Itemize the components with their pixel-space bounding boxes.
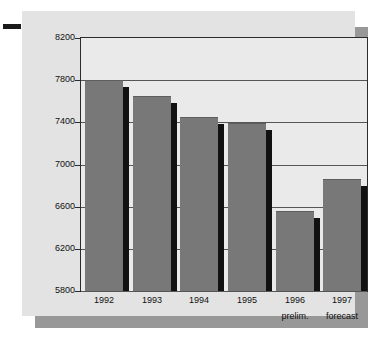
y-tick-label-7000: 7000	[49, 160, 75, 169]
bar-1996	[276, 211, 314, 291]
bar-1992	[85, 80, 123, 291]
bar-1995	[228, 123, 266, 291]
bar-group	[276, 211, 320, 291]
y-tick-mark-6600	[75, 207, 80, 208]
bar-shadow	[171, 103, 177, 291]
y-tick-mark-5800	[75, 291, 80, 292]
y-tick-mark-7800	[75, 80, 80, 81]
y-tick-mark-7000	[75, 165, 80, 166]
x-tick-label-1993: 1993	[128, 295, 176, 306]
x-tick-year: 1993	[142, 295, 162, 305]
x-tick-label-1995: 1995	[223, 295, 271, 306]
y-tick-label-7800: 7800	[49, 75, 75, 84]
x-tick-sublabel: prelim.	[271, 311, 319, 322]
x-axis: 19921993199419951996prelim.1997forecast	[80, 295, 368, 331]
x-tick-label-1992: 1992	[80, 295, 128, 306]
y-tick-label-6200: 6200	[49, 244, 75, 253]
bar-group	[228, 123, 272, 291]
bar-group	[133, 96, 177, 291]
left-dash-mark	[3, 24, 21, 29]
x-tick-year: 1992	[94, 295, 114, 305]
x-tick-sublabel: forecast	[318, 311, 366, 322]
gridline-5800	[81, 291, 367, 292]
y-tick-label-5800: 5800	[49, 286, 75, 295]
chart-screenshot: 5800620066007000740078008200 19921993199…	[0, 0, 381, 346]
x-tick-year: 1997	[332, 295, 352, 305]
y-tick-mark-8200	[75, 38, 80, 39]
y-tick-label-7400: 7400	[49, 117, 75, 126]
bar-shadow	[361, 186, 367, 291]
y-tick-mark-7400	[75, 122, 80, 123]
x-tick-year: 1996	[285, 295, 305, 305]
bar-group	[85, 80, 129, 291]
bar-shadow	[123, 87, 129, 291]
bar-shadow	[266, 130, 272, 291]
y-tick-mark-6200	[75, 249, 80, 250]
bar-1994	[180, 117, 218, 291]
bar-1993	[133, 96, 171, 291]
x-tick-label-1994: 1994	[175, 295, 223, 306]
bar-series	[81, 38, 367, 291]
bar-shadow	[218, 124, 224, 291]
x-tick-label-1997: 1997forecast	[318, 295, 366, 322]
y-tick-label-8200: 8200	[49, 33, 75, 42]
y-tick-label-6600: 6600	[49, 202, 75, 211]
bar-shadow	[314, 218, 320, 291]
x-tick-year: 1995	[237, 295, 257, 305]
x-tick-label-1996: 1996prelim.	[271, 295, 319, 322]
x-tick-year: 1994	[189, 295, 209, 305]
y-axis: 5800620066007000740078008200	[44, 11, 75, 316]
bar-group	[323, 179, 367, 291]
bar-1997	[323, 179, 361, 291]
bar-group	[180, 117, 224, 291]
chart-panel: 5800620066007000740078008200 19921993199…	[22, 11, 355, 316]
